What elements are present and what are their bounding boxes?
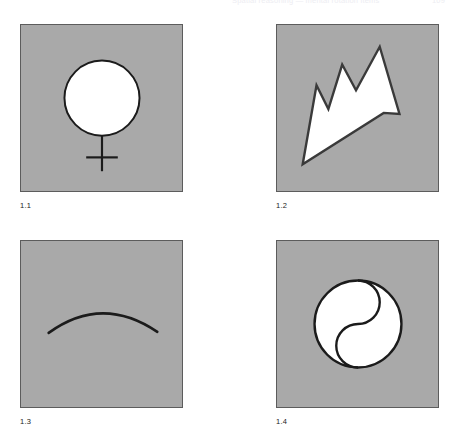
jagged-arrow-icon: [277, 25, 438, 191]
figure-cell-1-3[interactable]: 1.3: [20, 240, 183, 427]
shallow-arc-icon: [21, 241, 182, 407]
figure-plate: 1.1 1.2 1.3 1.4: [0, 0, 458, 432]
figure-frame-1-4: [276, 240, 439, 408]
figure-cell-1-2[interactable]: 1.2: [276, 24, 439, 211]
figure-cell-1-1[interactable]: 1.1: [20, 24, 183, 211]
yin-yang-circle-icon: [277, 241, 438, 407]
figure-frame-1-3: [20, 240, 183, 408]
venus-symbol-icon: [21, 25, 182, 191]
figure-frame-1-1: [20, 24, 183, 192]
figure-caption-1-1: 1.1: [20, 201, 183, 211]
figure-caption-1-2: 1.2: [276, 201, 439, 211]
figure-frame-1-2: [276, 24, 439, 192]
figure-caption-1-4: 1.4: [276, 417, 439, 427]
figure-cell-1-4[interactable]: 1.4: [276, 240, 439, 427]
figure-caption-1-3: 1.3: [20, 417, 183, 427]
